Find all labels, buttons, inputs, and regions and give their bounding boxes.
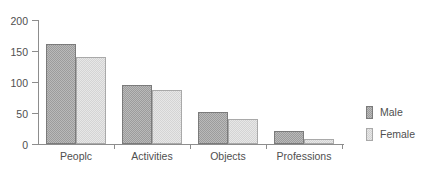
legend-label-female: Female — [380, 129, 415, 140]
plot-area — [38, 20, 342, 144]
y-axis-tick-label: 100 — [10, 77, 28, 88]
legend-swatch-male — [366, 106, 373, 119]
bar-male-peoplc — [46, 44, 76, 144]
x-axis-label-activities: Activities — [131, 151, 172, 162]
x-axis-label-objects: Objects — [210, 151, 246, 162]
legend-swatch-female — [366, 128, 373, 141]
y-axis-tick-label: 150 — [10, 46, 28, 57]
bar-female-activities — [152, 90, 182, 144]
bar-male-objects — [198, 112, 228, 144]
y-axis-tick-label: 200 — [10, 15, 28, 26]
bar-female-peoplc — [76, 57, 106, 144]
x-axis-label-professions: Professions — [277, 151, 332, 162]
legend-item-female[interactable]: Female — [366, 123, 415, 145]
legend-label-male: Male — [380, 107, 403, 118]
y-axis-line — [38, 20, 39, 145]
x-axis-line — [32, 144, 344, 145]
bar-male-activities — [122, 85, 152, 144]
bar-male-professions — [274, 131, 304, 144]
y-axis-tick-label: 50 — [16, 108, 28, 119]
x-axis-label-peoplc: Peoplc — [60, 151, 92, 162]
y-axis-tick-label: 0 — [22, 139, 28, 150]
bar-chart: 050100150200 PeoplcActivitiesObjectsProf… — [0, 0, 441, 176]
legend-item-male[interactable]: Male — [366, 101, 415, 123]
chart-legend: MaleFemale — [366, 101, 415, 145]
bar-female-objects — [228, 119, 258, 144]
